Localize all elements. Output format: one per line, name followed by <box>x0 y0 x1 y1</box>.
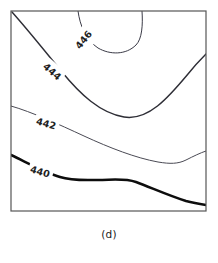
figure-caption: (d) <box>0 228 218 240</box>
plot-background <box>11 11 206 211</box>
contour-plot: 446 444 442 440 <box>0 0 218 220</box>
figure-panel-d: 446 444 442 440 (d) <box>0 0 218 263</box>
contour-plot-svg: 446 444 442 440 <box>0 0 218 220</box>
